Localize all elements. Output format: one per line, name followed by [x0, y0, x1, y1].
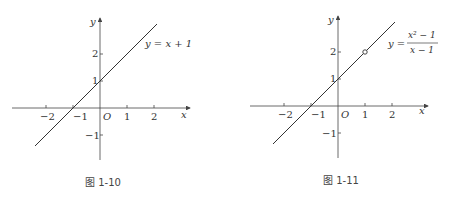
y-axis-label: y [89, 16, 96, 27]
y-tick-label: 1 [330, 73, 336, 84]
origin-label: O [103, 111, 111, 122]
function-label-denominator: x − 1 [410, 45, 434, 55]
y-ticks [100, 54, 103, 135]
x-tick-label: −1 [73, 111, 88, 122]
y-tick-label: 1 [92, 75, 98, 86]
x-tick-label: 2 [389, 109, 395, 120]
y-tick-label: −1 [322, 128, 337, 139]
figure-canvas: −2 −1 1 2 O x y 2 1 −1 y = x + 1 −2 −1 1… [0, 0, 450, 197]
figure-caption-right: 图 1-11 [323, 172, 359, 187]
y-tick-label: −1 [85, 130, 100, 141]
y-tick-label: 2 [330, 46, 336, 57]
x-tick-label: −2 [40, 111, 55, 122]
y-ticks [338, 52, 341, 133]
x-tick-label: 1 [124, 111, 130, 122]
x-tick-label: 2 [151, 111, 157, 122]
y-axis-label: y [327, 14, 334, 25]
x-axis-label: x [419, 105, 425, 116]
chart-right: −2 −1 1 2 O x y 2 1 −1 y = x² − 1 x − 1 [250, 14, 438, 158]
function-label: y = x + 1 [144, 38, 192, 49]
function-label-numerator: x² − 1 [408, 30, 436, 40]
x-tick-label: −2 [278, 109, 293, 120]
hollow-point-marker [363, 50, 367, 54]
x-axis-label: x [181, 109, 187, 120]
y-tick-label: 2 [92, 48, 98, 59]
x-tick-label: 1 [362, 109, 368, 120]
function-label-lhs: y = [387, 38, 405, 49]
origin-label: O [341, 109, 349, 120]
figure-caption-left: 图 1-10 [85, 174, 121, 189]
x-tick-label: −1 [311, 109, 326, 120]
chart-left: −2 −1 1 2 O x y 2 1 −1 y = x + 1 [12, 16, 192, 160]
